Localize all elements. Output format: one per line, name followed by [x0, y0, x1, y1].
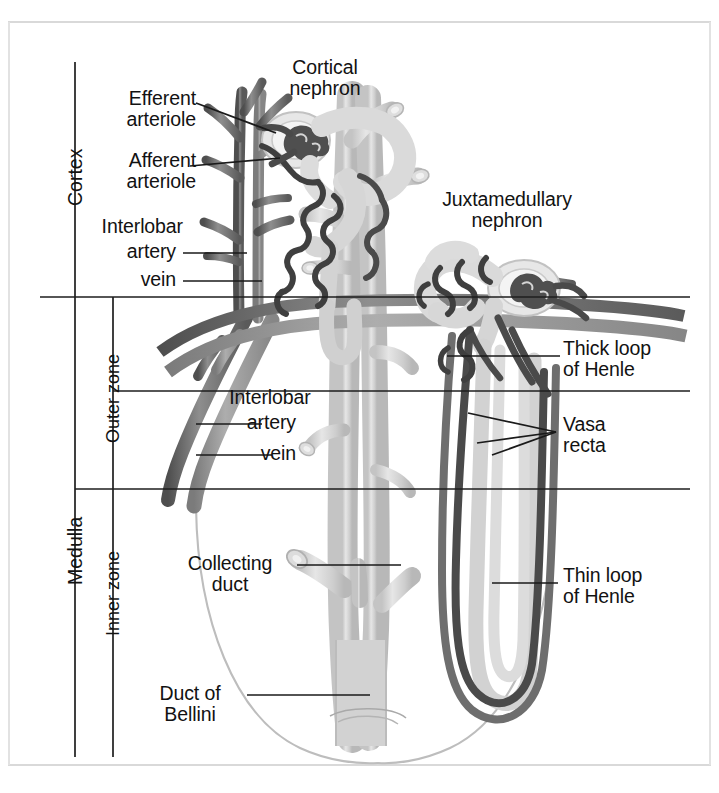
label-juxtamedullary-nephron: Juxtamedullary nephron — [412, 189, 602, 230]
label-collecting-duct: Collecting duct — [160, 553, 300, 594]
label-vasa-recta: Vasa recta — [563, 414, 683, 455]
label-interlobar-cortex: Interlobar — [68, 216, 183, 237]
label-efferent-arteriole: Efferent arteriole — [100, 88, 196, 129]
label-cortical-nephron: Cortical nephron — [260, 57, 390, 98]
axis-label-cortex: Cortex — [64, 149, 87, 206]
label-interlobar-medulla: Interlobar — [200, 387, 340, 408]
label-interlobar-cortex-vein: vein — [68, 269, 176, 290]
kidney-nephron-figure: Cortex Medulla Outer zone Inner zone Eff… — [0, 0, 719, 793]
label-duct-of-bellini: Duct of Bellini — [130, 683, 250, 724]
label-interlobar-medulla-vein: vein — [200, 443, 296, 464]
axis-label-inner-zone: Inner zone — [103, 551, 124, 636]
label-thick-loop-of-henle: Thick loop of Henle — [563, 338, 708, 379]
label-interlobar-cortex-artery: artery — [68, 241, 176, 262]
axis-label-medulla: Medulla — [64, 517, 87, 585]
axis-label-outer-zone: Outer zone — [103, 354, 124, 443]
label-thin-loop-of-henle: Thin loop of Henle — [563, 565, 708, 606]
label-interlobar-medulla-artery: artery — [200, 412, 296, 433]
label-afferent-arteriole: Afferent arteriole — [100, 150, 196, 191]
